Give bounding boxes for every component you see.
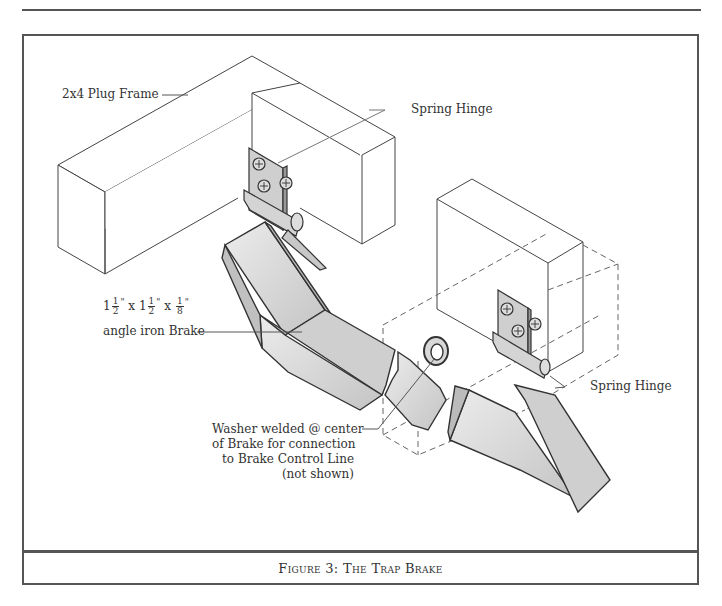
dim1-whole: 1	[103, 299, 111, 313]
dim2-fraction: 12	[148, 297, 156, 316]
label-spring-hinge-top: Spring Hinge	[411, 102, 493, 116]
times-1: x	[128, 299, 135, 313]
figure-caption: Figure 3: The Trap Brake	[278, 561, 442, 576]
dim2-whole: 1	[139, 299, 147, 313]
caption-box: Figure 3: The Trap Brake	[22, 551, 699, 585]
angle-iron-brake-right	[448, 385, 610, 512]
leader-spring-hinge-right	[550, 376, 565, 388]
label-spring-hinge-right: Spring Hinge	[590, 379, 672, 393]
label-plug-frame: 2x4 Plug Frame	[62, 87, 159, 101]
dim1-fraction: 12	[112, 297, 120, 316]
label-angle-iron-dimensions: 112" x 112" x 18"	[103, 297, 189, 316]
dim3-fraction: 18	[176, 297, 184, 316]
label-washer: Washer welded @ center of Brake for conn…	[212, 422, 354, 482]
label-angle-iron-brake: angle iron Brake	[103, 324, 205, 338]
times-2: x	[164, 299, 171, 313]
